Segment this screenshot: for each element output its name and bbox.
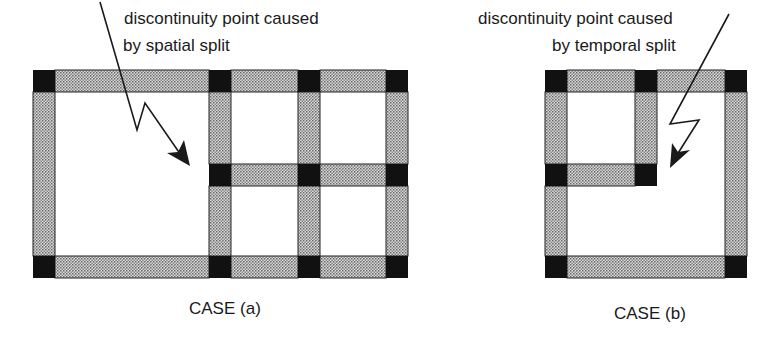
edge bbox=[231, 70, 298, 92]
edge bbox=[567, 70, 635, 92]
node bbox=[298, 70, 320, 92]
case-a-caption: CASE (a) bbox=[189, 299, 261, 318]
node bbox=[725, 256, 747, 278]
case-a-annotation-line1: discontinuity point caused bbox=[124, 9, 319, 28]
node bbox=[33, 70, 55, 92]
case-b-annotation-line2: by temporal split bbox=[552, 36, 676, 55]
edge bbox=[298, 92, 320, 164]
case-b-caption: CASE (b) bbox=[614, 304, 686, 323]
edge bbox=[635, 92, 657, 164]
node bbox=[545, 256, 567, 278]
node bbox=[725, 70, 747, 92]
node bbox=[33, 256, 55, 278]
edge bbox=[55, 256, 209, 278]
edge bbox=[231, 256, 298, 278]
case-b-annotation-line1: discontinuity point caused bbox=[478, 9, 673, 28]
node bbox=[386, 70, 408, 92]
edge bbox=[209, 92, 231, 164]
edge bbox=[320, 256, 386, 278]
edge bbox=[209, 186, 231, 256]
case-a-annotation-line2: by spatial split bbox=[123, 36, 230, 55]
edge bbox=[567, 164, 635, 186]
edge bbox=[657, 70, 725, 92]
node bbox=[386, 164, 408, 186]
edge bbox=[386, 92, 408, 164]
node bbox=[386, 256, 408, 278]
case-a-grid bbox=[33, 70, 408, 278]
edge bbox=[33, 92, 55, 256]
node bbox=[298, 164, 320, 186]
node bbox=[209, 70, 231, 92]
edge bbox=[298, 186, 320, 256]
edge bbox=[545, 186, 567, 256]
edge bbox=[545, 92, 567, 164]
edge bbox=[386, 186, 408, 256]
edge bbox=[320, 70, 386, 92]
edge bbox=[567, 256, 725, 278]
edge bbox=[231, 164, 298, 186]
node bbox=[635, 164, 657, 186]
node bbox=[635, 70, 657, 92]
node bbox=[545, 164, 567, 186]
edge bbox=[320, 164, 386, 186]
node bbox=[209, 256, 231, 278]
node bbox=[209, 164, 231, 186]
node bbox=[298, 256, 320, 278]
node bbox=[545, 70, 567, 92]
diagram-canvas: discontinuity point caused by spatial sp… bbox=[0, 0, 768, 341]
edge bbox=[725, 92, 747, 256]
edge bbox=[55, 70, 209, 92]
case-b-grid bbox=[545, 70, 747, 278]
